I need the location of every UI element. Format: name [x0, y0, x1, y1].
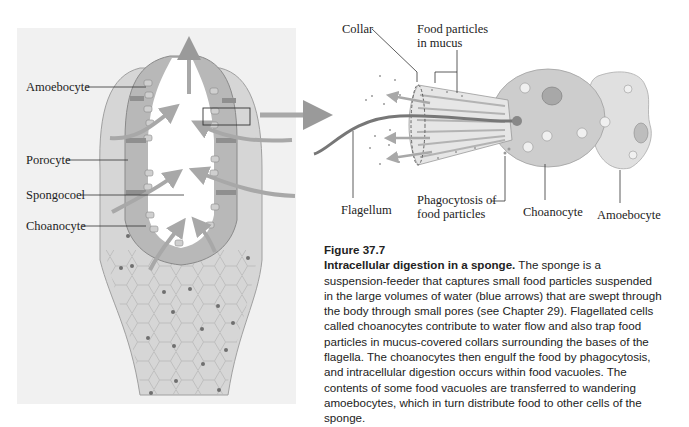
label-choanocyte-left: Choanocyte	[26, 219, 86, 233]
choanocyte-detail	[314, 69, 651, 169]
figure-caption: Figure 37.7 Intracellular digestion in a…	[324, 242, 664, 426]
figure-title: Intracellular digestion in a sponge.	[324, 258, 515, 271]
label-phagocytosis-line1: Phagocytosis of	[417, 193, 497, 207]
label-amoebocyte-right: Amoebocyte	[597, 208, 661, 222]
label-amoebocyte: Amoebocyte	[26, 80, 90, 94]
figure-number: Figure 37.7	[324, 242, 664, 257]
label-flagellum: Flagellum	[341, 203, 392, 217]
label-choanocyte-right: Choanocyte	[523, 205, 583, 219]
figure-body: The sponge is a suspension-feeder that c…	[324, 258, 662, 424]
label-spongocoel: Spongocoel	[26, 188, 85, 202]
label-phagocytosis-line2: food particles	[417, 207, 485, 221]
label-food-particles-line1: Food particles	[417, 22, 488, 36]
label-collar: Collar	[342, 22, 373, 36]
label-porocyte: Porocyte	[26, 153, 70, 167]
label-food-particles-line2: in mucus	[417, 36, 462, 50]
